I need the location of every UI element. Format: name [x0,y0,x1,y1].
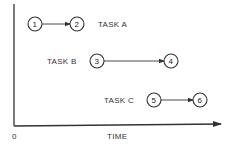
node-label: 2 [75,20,80,29]
task-label: TASK B [47,57,77,66]
task-c: TASK C 5 6 [104,93,207,107]
node-label: 1 [33,20,38,29]
task-timeline-diagram: 0 TIME 1 2 TASK A TASK B 3 4 TASK C 5 6 [0,0,231,148]
node-label: 6 [198,96,203,105]
x-axis-label: TIME [107,132,127,141]
task-label: TASK A [98,20,128,29]
task-a: 1 2 TASK A [28,17,128,31]
task-b: TASK B 3 4 [47,54,178,68]
node-label: 5 [152,96,157,105]
node-label: 4 [169,57,174,66]
node-label: 3 [95,57,100,66]
x-axis [14,124,221,126]
task-label: TASK C [104,96,134,105]
origin-label: 0 [12,132,17,141]
